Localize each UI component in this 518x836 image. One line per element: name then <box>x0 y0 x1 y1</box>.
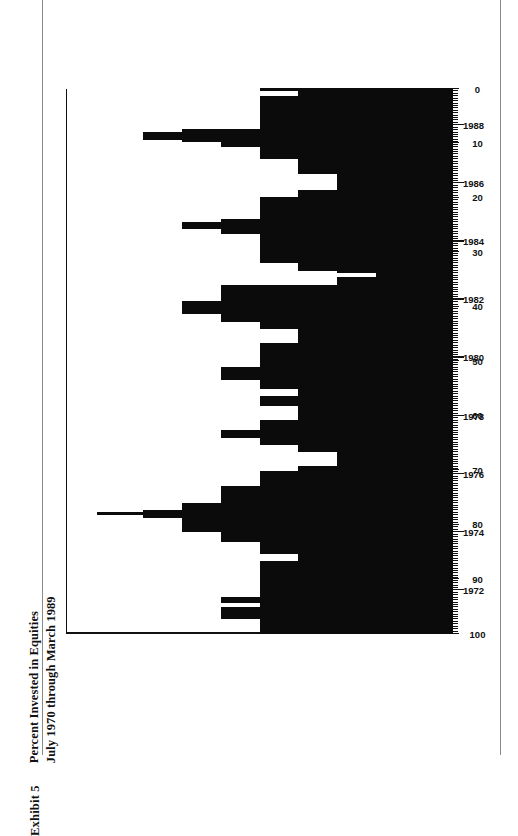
time-tick-minor <box>453 431 458 432</box>
time-tick-minor <box>453 272 458 273</box>
time-tick-minor <box>453 521 458 522</box>
time-tick-minor <box>453 184 458 185</box>
time-tick-minor <box>453 322 458 323</box>
time-tick-minor <box>453 342 458 343</box>
time-tick-major <box>453 123 464 124</box>
time-tick-minor <box>453 422 458 423</box>
time-tick-minor <box>453 526 458 527</box>
time-tick-minor <box>453 199 458 200</box>
time-tick-minor <box>453 436 458 437</box>
time-tick-label: 1980 <box>468 337 479 377</box>
time-tick-minor <box>453 371 458 372</box>
time-tick-minor <box>453 536 458 537</box>
time-tick-minor <box>453 477 458 478</box>
time-tick-minor <box>453 204 458 205</box>
time-tick-minor <box>453 410 458 411</box>
time-tick-minor <box>453 601 458 602</box>
time-tick-minor <box>453 446 458 447</box>
time-tick-minor <box>453 490 458 491</box>
time-tick-minor <box>453 344 458 345</box>
time-tick-minor <box>453 247 458 248</box>
time-tick-minor <box>453 286 458 287</box>
time-tick-minor <box>453 378 458 379</box>
time-tick-minor <box>453 235 458 236</box>
time-tick-minor <box>453 269 458 270</box>
bar-series <box>66 89 453 634</box>
time-tick-minor <box>453 524 458 525</box>
time-tick-minor <box>453 306 458 307</box>
time-tick-minor <box>453 291 458 292</box>
time-tick-minor <box>453 327 458 328</box>
time-tick-minor <box>453 267 458 268</box>
time-tick-minor <box>453 417 458 418</box>
time-tick-minor <box>453 337 458 338</box>
time-tick-minor <box>453 548 458 549</box>
time-tick-minor <box>453 197 458 198</box>
time-tick-minor <box>453 606 458 607</box>
time-tick-minor <box>453 201 458 202</box>
time-tick-minor <box>453 163 458 164</box>
time-tick-minor <box>453 545 458 546</box>
time-tick-minor <box>453 315 458 316</box>
time-tick-minor <box>453 494 458 495</box>
time-tick-label: 1976 <box>468 454 479 494</box>
figure-title-line-2: July 1970 through March 1989 <box>44 596 59 763</box>
time-tick-minor <box>453 633 458 634</box>
time-tick-minor <box>453 155 458 156</box>
time-tick-minor <box>453 451 458 452</box>
time-tick-major <box>453 356 464 357</box>
time-tick-minor <box>453 112 458 113</box>
time-tick-label: 1972 <box>468 570 479 610</box>
time-tick-minor <box>453 385 458 386</box>
time-tick-minor <box>453 538 458 539</box>
time-tick-minor <box>453 354 458 355</box>
time-tick-minor <box>453 463 458 464</box>
time-tick-minor <box>453 172 458 173</box>
time-tick-minor <box>453 584 458 585</box>
time-tick-minor <box>453 141 458 142</box>
time-tick-minor <box>453 223 458 224</box>
time-tick-minor <box>453 303 458 304</box>
time-tick-minor <box>453 468 458 469</box>
time-tick-label: 1986 <box>468 163 479 203</box>
time-tick-minor <box>453 209 458 210</box>
time-tick-minor <box>453 146 458 147</box>
time-tick-minor <box>453 402 458 403</box>
time-tick-minor <box>453 180 458 181</box>
time-tick-minor <box>453 158 458 159</box>
time-tick-minor <box>453 293 458 294</box>
time-tick-minor <box>453 230 458 231</box>
time-tick-minor <box>453 412 458 413</box>
time-tick-minor <box>453 189 458 190</box>
time-tick-major <box>453 530 464 531</box>
time-tick-minor <box>453 599 458 600</box>
time-tick-minor <box>453 574 458 575</box>
time-tick-minor <box>453 608 458 609</box>
time-tick-minor <box>453 381 458 382</box>
time-tick-minor <box>453 555 458 556</box>
time-tick-minor <box>453 502 458 503</box>
time-tick-minor <box>453 572 458 573</box>
time-tick-minor <box>453 218 458 219</box>
time-tick-minor <box>453 540 458 541</box>
time-tick-minor <box>453 233 458 234</box>
time-tick-minor <box>453 226 458 227</box>
time-tick-minor <box>453 407 458 408</box>
time-tick-minor <box>453 461 458 462</box>
time-tick-minor <box>453 373 458 374</box>
chart-plot: 1009080706050403020100197219741976197819… <box>66 89 453 634</box>
value-tick-label: 100 <box>472 614 483 654</box>
time-tick-minor <box>453 213 458 214</box>
time-tick-label: 1982 <box>468 279 479 319</box>
time-tick-minor <box>453 264 458 265</box>
time-tick-major <box>453 298 464 299</box>
time-tick-minor <box>453 252 458 253</box>
time-tick-minor <box>453 121 458 122</box>
time-tick-minor <box>453 88 458 89</box>
time-tick-minor <box>453 364 458 365</box>
time-tick-minor <box>453 533 458 534</box>
time-tick-minor <box>453 570 458 571</box>
time-tick-minor <box>453 427 458 428</box>
time-tick-minor <box>453 424 458 425</box>
time-tick-minor <box>453 352 458 353</box>
